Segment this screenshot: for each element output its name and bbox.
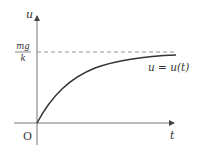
origin-label: O xyxy=(23,130,32,143)
x-axis-label: t xyxy=(170,129,175,142)
velocity-time-diagram: u t O mg k u = u(t) xyxy=(0,0,211,153)
asymptote-numerator: mg xyxy=(16,41,30,51)
curve-label: u = u(t) xyxy=(148,61,189,73)
y-axis-label: u xyxy=(26,8,33,21)
asymptote-denominator: k xyxy=(20,53,25,63)
